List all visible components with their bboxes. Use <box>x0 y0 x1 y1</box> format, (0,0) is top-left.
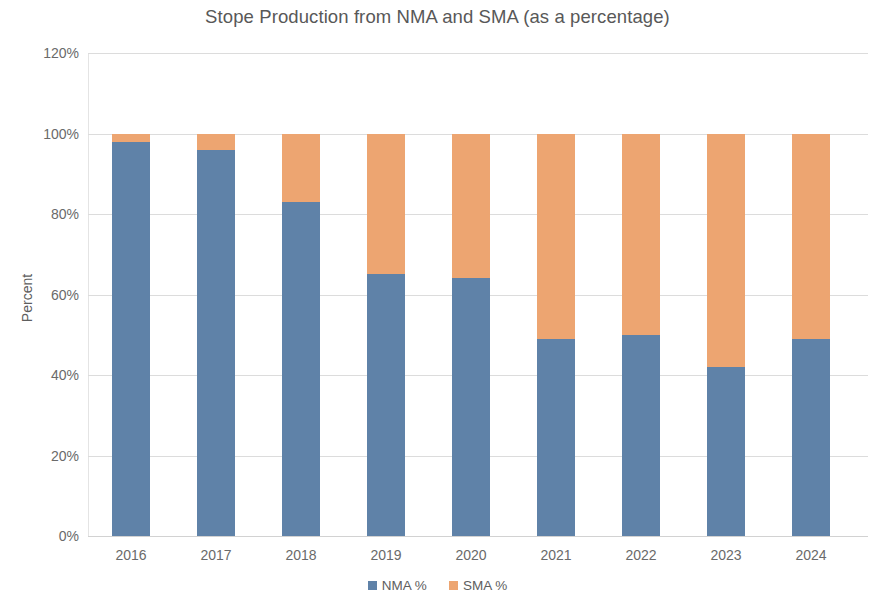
bar-segment-sma[interactable] <box>112 134 150 142</box>
legend-label: NMA % <box>382 578 427 593</box>
stacked-bar-chart: Stope Production from NMA and SMA (as a … <box>0 0 875 601</box>
bar-segment-sma[interactable] <box>707 134 745 367</box>
y-tick-label: 20% <box>51 448 79 464</box>
y-axis-title: Percent <box>19 253 35 343</box>
x-tick-label: 2016 <box>115 547 146 563</box>
bar-segment-nma[interactable] <box>282 202 320 536</box>
x-tick-label: 2020 <box>455 547 486 563</box>
bar-group[interactable]: 2022 <box>622 134 660 537</box>
bar-group[interactable]: 2017 <box>197 134 235 537</box>
bar-group[interactable]: 2023 <box>707 134 745 537</box>
x-tick-label: 2021 <box>540 547 571 563</box>
bar-group[interactable]: 2021 <box>537 134 575 537</box>
chart-legend: NMA %SMA % <box>0 578 875 593</box>
bar-segment-sma[interactable] <box>537 134 575 339</box>
y-tick-label: 120% <box>43 45 79 61</box>
bar-segment-sma[interactable] <box>197 134 235 150</box>
bar-segment-nma[interactable] <box>537 339 575 536</box>
bar-segment-nma[interactable] <box>707 367 745 536</box>
y-tick-label: 80% <box>51 206 79 222</box>
legend-swatch-icon <box>449 581 458 590</box>
legend-label: SMA % <box>463 578 507 593</box>
x-tick-label: 2017 <box>200 547 231 563</box>
bars-layer: 201620172018201920202021202220232024 <box>88 48 868 541</box>
bar-segment-nma[interactable] <box>792 339 830 536</box>
bar-segment-nma[interactable] <box>367 274 405 536</box>
x-tick-label: 2024 <box>795 547 826 563</box>
bar-group[interactable]: 2019 <box>367 134 405 537</box>
chart-title: Stope Production from NMA and SMA (as a … <box>0 6 875 28</box>
legend-swatch-icon <box>368 581 377 590</box>
bar-segment-sma[interactable] <box>367 134 405 275</box>
x-tick-label: 2019 <box>370 547 401 563</box>
bar-segment-nma[interactable] <box>452 278 490 536</box>
bar-segment-nma[interactable] <box>622 335 660 536</box>
bar-group[interactable]: 2018 <box>282 134 320 537</box>
bar-segment-sma[interactable] <box>452 134 490 279</box>
bar-segment-nma[interactable] <box>197 150 235 536</box>
bar-segment-sma[interactable] <box>282 134 320 202</box>
y-tick-label: 40% <box>51 367 79 383</box>
y-tick-label: 100% <box>43 126 79 142</box>
bar-segment-nma[interactable] <box>112 142 150 536</box>
bar-segment-sma[interactable] <box>622 134 660 335</box>
bar-segment-sma[interactable] <box>792 134 830 339</box>
legend-item[interactable]: SMA % <box>449 578 507 593</box>
plot-area: 0%20%40%60%80%100%120% 20162017201820192… <box>88 48 868 541</box>
bar-group[interactable]: 2020 <box>452 134 490 537</box>
y-tick-label: 0% <box>59 528 79 544</box>
bar-group[interactable]: 2016 <box>112 134 150 537</box>
legend-item[interactable]: NMA % <box>368 578 427 593</box>
bar-group[interactable]: 2024 <box>792 134 830 537</box>
x-tick-label: 2018 <box>285 547 316 563</box>
x-tick-label: 2022 <box>625 547 656 563</box>
x-tick-label: 2023 <box>710 547 741 563</box>
y-tick-label: 60% <box>51 287 79 303</box>
